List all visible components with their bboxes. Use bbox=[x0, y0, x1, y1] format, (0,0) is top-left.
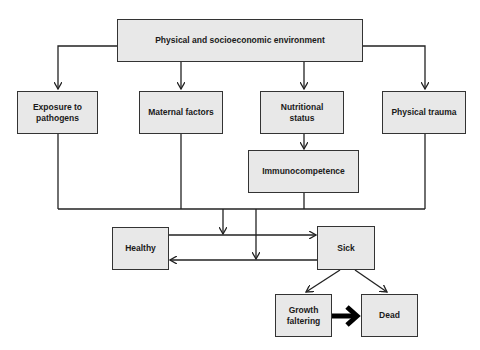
node-label: Physical trauma bbox=[391, 107, 456, 118]
node-maternal: Maternal factors bbox=[139, 91, 223, 134]
node-immunocompetence: Immunocompetence bbox=[248, 150, 359, 193]
edge-sick-growth bbox=[306, 270, 340, 292]
edge-env-exposure bbox=[58, 46, 117, 89]
node-environment: Physical and socioeconomic environment bbox=[117, 19, 363, 62]
node-label: Dead bbox=[379, 310, 400, 321]
node-growth-faltering: Growth faltering bbox=[275, 294, 332, 337]
node-healthy: Healthy bbox=[112, 227, 169, 270]
node-dead: Dead bbox=[361, 294, 418, 337]
node-label: Sick bbox=[337, 243, 355, 254]
node-label: Nutritional status bbox=[275, 102, 330, 124]
node-nutritional: Nutritional status bbox=[260, 91, 344, 134]
node-label: Exposure to pathogens bbox=[27, 102, 89, 124]
edge-env-trauma bbox=[363, 46, 425, 89]
node-label: Physical and socioeconomic environment bbox=[155, 35, 325, 46]
node-trauma: Physical trauma bbox=[382, 91, 466, 134]
node-label: Healthy bbox=[125, 243, 156, 254]
diagram-canvas: Physical and socioeconomic environment E… bbox=[0, 0, 480, 350]
edge-sick-dead bbox=[355, 270, 387, 292]
node-exposure: Exposure to pathogens bbox=[17, 91, 98, 134]
edge-growth-dead-thick bbox=[331, 307, 357, 325]
node-label: Immunocompetence bbox=[262, 166, 345, 177]
node-sick: Sick bbox=[317, 226, 375, 270]
node-label: Maternal factors bbox=[148, 107, 214, 118]
node-label: Growth faltering bbox=[281, 305, 326, 327]
